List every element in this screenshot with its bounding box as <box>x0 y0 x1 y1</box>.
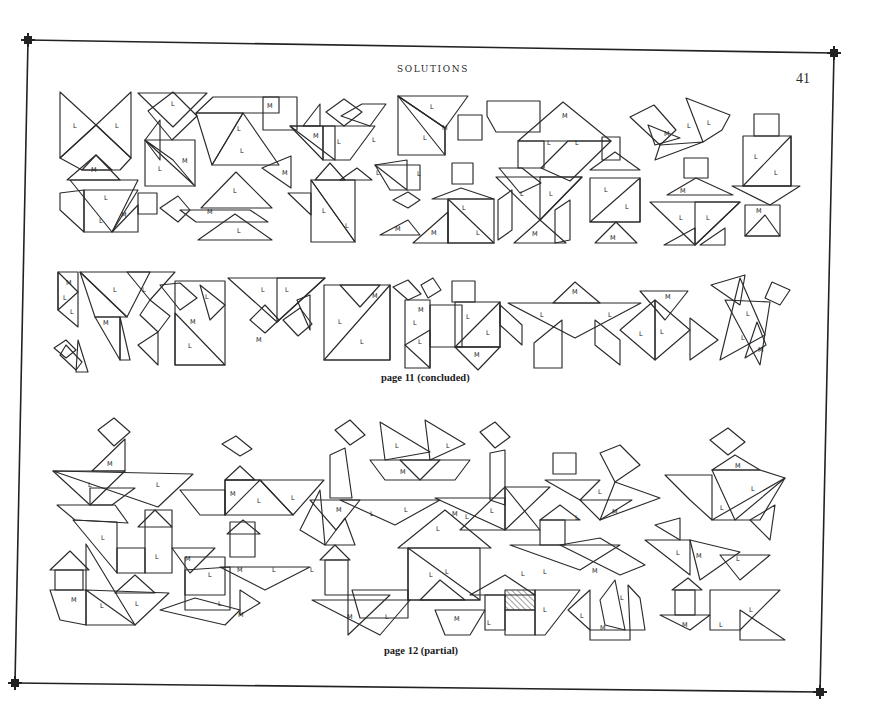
svg-text:L: L <box>417 170 421 178</box>
svg-text:L: L <box>360 338 364 346</box>
tangram-figures-row3 <box>50 418 785 640</box>
tangram-figures-row2 <box>54 272 790 372</box>
tangram-labels-row3: ML LL LM ML LM LL ML LL LM ML LM LL ML L… <box>71 442 755 632</box>
svg-text:M: M <box>190 318 196 326</box>
svg-text:L: L <box>741 334 745 342</box>
svg-text:M: M <box>121 211 127 219</box>
svg-text:L: L <box>625 203 629 211</box>
svg-text:L: L <box>429 571 433 579</box>
svg-text:L: L <box>466 313 470 321</box>
svg-text:M: M <box>313 132 319 140</box>
svg-text:L: L <box>205 293 209 301</box>
svg-text:L: L <box>487 619 491 627</box>
svg-text:M: M <box>395 225 401 233</box>
tangram-figures-row1 <box>60 92 800 245</box>
svg-text:M: M <box>267 102 273 110</box>
svg-text:L: L <box>540 311 544 319</box>
svg-text:L: L <box>240 147 244 155</box>
svg-text:L: L <box>158 165 162 173</box>
svg-text:M: M <box>600 624 606 632</box>
svg-text:L: L <box>575 514 579 522</box>
corner-ornament-icon <box>8 33 841 699</box>
svg-text:M: M <box>66 279 72 287</box>
svg-text:M: M <box>347 613 353 621</box>
svg-text:L: L <box>404 506 408 514</box>
svg-text:L: L <box>372 136 376 144</box>
svg-text:L: L <box>707 119 711 127</box>
svg-text:L: L <box>521 570 525 578</box>
section-caption-page-11: page 11 (concluded) <box>381 372 470 383</box>
svg-text:L: L <box>237 227 241 235</box>
section-caption-page-12: page 12 (partial) <box>384 645 458 656</box>
svg-text:M: M <box>665 293 671 301</box>
svg-text:L: L <box>660 328 664 336</box>
svg-text:L: L <box>70 308 74 316</box>
svg-text:M: M <box>182 157 188 165</box>
page-frame: LL ML LM LM LM LL LM LM ML LL LL LM LM L… <box>0 0 871 726</box>
svg-text:L: L <box>257 497 261 505</box>
svg-text:L: L <box>736 555 740 563</box>
svg-text:L: L <box>100 602 104 610</box>
svg-text:M: M <box>71 596 77 604</box>
svg-text:L: L <box>285 286 289 294</box>
svg-text:L: L <box>687 122 691 130</box>
svg-text:L: L <box>345 222 349 230</box>
svg-text:L: L <box>218 600 222 608</box>
svg-text:L: L <box>418 338 422 346</box>
svg-text:M: M <box>237 566 243 574</box>
svg-text:L: L <box>135 600 139 608</box>
svg-text:L: L <box>237 125 241 133</box>
svg-text:M: M <box>454 615 460 623</box>
svg-text:L: L <box>679 214 683 222</box>
svg-text:M: M <box>572 288 578 296</box>
svg-text:L: L <box>598 488 602 496</box>
svg-text:L: L <box>395 442 399 450</box>
svg-text:L: L <box>445 568 449 576</box>
svg-text:L: L <box>73 122 77 130</box>
svg-text:L: L <box>272 566 276 574</box>
svg-text:L: L <box>370 510 374 518</box>
svg-text:L: L <box>436 525 440 533</box>
svg-text:L: L <box>575 139 579 147</box>
svg-text:M: M <box>107 460 113 468</box>
svg-text:L: L <box>446 442 450 450</box>
svg-text:L: L <box>113 286 117 294</box>
svg-text:M: M <box>452 510 458 518</box>
svg-text:M: M <box>610 234 616 242</box>
svg-text:M: M <box>532 230 538 238</box>
svg-text:L: L <box>413 319 417 327</box>
svg-text:L: L <box>156 481 160 489</box>
svg-text:M: M <box>418 306 424 314</box>
svg-text:M: M <box>562 112 568 120</box>
svg-text:L: L <box>754 153 758 161</box>
svg-text:L: L <box>751 485 755 493</box>
svg-text:M: M <box>442 124 448 132</box>
svg-text:M: M <box>400 468 406 476</box>
svg-text:L: L <box>261 286 265 294</box>
svg-text:L: L <box>719 621 723 629</box>
svg-text:M: M <box>664 130 670 138</box>
book-page: LL ML LM LM LM LL LM LM ML LL LL LM LM L… <box>0 0 871 726</box>
svg-text:M: M <box>592 567 598 575</box>
svg-text:L: L <box>322 207 326 215</box>
svg-text:L: L <box>520 190 524 198</box>
svg-text:L: L <box>490 507 494 515</box>
svg-text:L: L <box>104 194 108 202</box>
svg-text:L: L <box>115 122 119 130</box>
svg-text:L: L <box>476 229 480 237</box>
svg-text:M: M <box>682 621 688 629</box>
svg-text:L: L <box>88 481 92 489</box>
svg-text:L: L <box>639 330 643 338</box>
svg-text:M: M <box>758 346 764 354</box>
svg-text:L: L <box>465 513 469 521</box>
svg-text:M: M <box>431 229 437 237</box>
svg-text:L: L <box>208 571 212 579</box>
svg-text:L: L <box>604 186 608 194</box>
svg-text:L: L <box>547 139 551 147</box>
svg-text:L: L <box>774 169 778 177</box>
page-number: 41 <box>796 71 810 87</box>
svg-text:M: M <box>735 462 741 470</box>
svg-text:L: L <box>142 286 146 294</box>
svg-text:L: L <box>580 612 584 620</box>
svg-text:M: M <box>474 351 480 359</box>
